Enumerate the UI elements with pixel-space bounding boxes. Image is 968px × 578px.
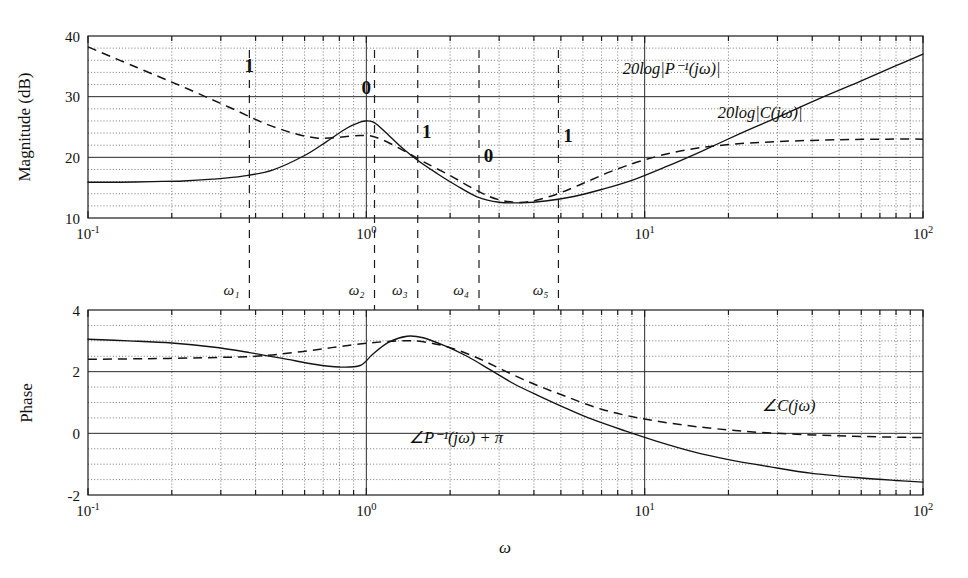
magnitude-ytick-labels: 10203040: [65, 29, 80, 227]
omega-marker-group: ω₁ω₂ω₃ω₄ω₅: [224, 50, 559, 310]
curve-label: ∠P⁻¹(jω) + π: [409, 428, 504, 447]
phase-xtick-labels: 10-1100101102: [76, 501, 933, 519]
svg-text:2: 2: [73, 364, 81, 380]
svg-text:4: 4: [73, 303, 81, 319]
omega-marker: ω₃: [392, 50, 418, 310]
magnitude-curve-Pinv: [88, 54, 923, 203]
phase-curve-C: [88, 341, 923, 438]
curve-label: 20log|P⁻¹(jω)|: [623, 59, 721, 78]
curve-label: ∠C(jω): [762, 396, 815, 415]
magnitude-axis-label: Magnitude (dB): [15, 72, 34, 181]
magnitude-plot: 10203040 10-1100101102 1010120log|P⁻¹(jω…: [15, 29, 933, 243]
svg-text:-2: -2: [68, 488, 81, 504]
bode-plot-figure: 10203040 10-1100101102 1010120log|P⁻¹(jω…: [0, 0, 968, 578]
svg-text:10-1: 10-1: [76, 501, 100, 519]
svg-text:102: 102: [913, 501, 933, 519]
svg-text:102: 102: [913, 224, 933, 242]
slope-label: 0: [484, 145, 494, 166]
omega-label: ω₃: [392, 282, 408, 298]
phase-ytick-labels: -2024: [68, 303, 81, 504]
svg-text:10-1: 10-1: [76, 224, 100, 242]
svg-text:0: 0: [73, 426, 81, 442]
magnitude-axis-ticks: [88, 36, 923, 218]
svg-text:20: 20: [65, 150, 80, 166]
magnitude-minor-gridlines: [172, 36, 910, 218]
magnitude-xtick-labels: 10-1100101102: [76, 224, 933, 242]
svg-text:100: 100: [356, 224, 376, 242]
svg-text:30: 30: [65, 89, 80, 105]
magnitude-major-gridlines: [88, 36, 923, 218]
phase-plot: -2024 10-1100101102 ∠C(jω)∠P⁻¹(jω) + π P…: [17, 303, 933, 558]
magnitude-horizontal-gridlines: [88, 48, 923, 206]
slope-label: 0: [362, 77, 372, 98]
curve-label: 20log|C(jω)|: [718, 103, 803, 122]
svg-text:40: 40: [65, 29, 80, 45]
slope-label: 1: [422, 121, 432, 142]
slope-label: 1: [563, 125, 573, 146]
omega-label: ω₅: [533, 282, 549, 298]
phase-axis-label: Phase: [17, 383, 36, 423]
omega-marker: ω₅: [533, 50, 559, 310]
magnitude-annotations: 1010120log|P⁻¹(jω)|20log|C(jω)|: [245, 55, 803, 165]
omega-label: ω₄: [453, 282, 469, 298]
omega-label: ω₂: [349, 282, 365, 298]
omega-label: ω₁: [224, 282, 240, 298]
omega-marker: ω₁: [224, 50, 250, 310]
bode-plot-svg: 10203040 10-1100101102 1010120log|P⁻¹(jω…: [0, 0, 968, 578]
svg-text:100: 100: [356, 501, 376, 519]
svg-text:101: 101: [635, 224, 655, 242]
svg-text:101: 101: [635, 501, 655, 519]
svg-text:10: 10: [65, 211, 80, 227]
magnitude-plot-frame: [88, 36, 923, 218]
phase-annotations: ∠C(jω)∠P⁻¹(jω) + π: [409, 396, 816, 447]
omega-axis-label: ω: [499, 538, 511, 557]
